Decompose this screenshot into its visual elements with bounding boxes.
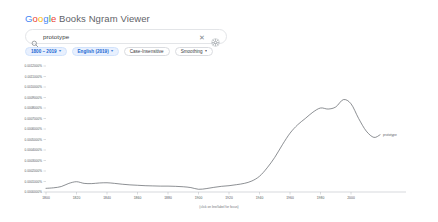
y-axis-ticks: 0.0000000%0.0001000%0.0002000%0.0003000%… [25,64,46,194]
y-axis-tick-label: 0.0011000% [25,75,42,79]
y-axis-tick-label: 0.0000000% [25,190,43,194]
y-axis-tick-label: 0.0005000% [25,138,43,142]
chip-case-insensitive[interactable]: Case-Insensitive [124,47,170,56]
x-axis-tick-label: 1800 [42,196,50,200]
page-title: Google Books Ngram Viewer [25,13,150,24]
chart-svg[interactable]: 0.0000000%0.0001000%0.0002000%0.0003000%… [0,60,438,222]
x-axis-tick-label: 1900 [195,196,203,200]
chip-case-insensitive-label: Case-Insensitive [130,47,164,56]
x-axis-tick-label: 1960 [286,196,294,200]
chip-year-range[interactable]: 1800 – 2019 ▾ [25,47,67,56]
chip-year-range-label: 1800 – 2019 [31,47,57,56]
y-axis-tick-label: 0.0004000% [25,148,43,152]
search-bar[interactable]: prototype ✕ [25,29,227,44]
x-axis-tick-label: 1940 [256,196,264,200]
x-axis-tick-label: 1920 [225,196,233,200]
gear-icon[interactable] [211,33,220,42]
x-axis-tick-label: 2000 [347,196,355,200]
chart-caption: (click on line/label for focus) [199,205,238,209]
x-axis-tick-label: 1880 [164,196,172,200]
ngram-chart[interactable]: 0.0000000%0.0001000%0.0002000%0.0003000%… [0,60,438,222]
y-axis-tick-label: 0.0001000% [25,180,43,184]
x-axis-tick-label: 1980 [317,196,325,200]
y-axis-tick-label: 0.0010000% [25,85,43,89]
y-axis-tick-label: 0.0006000% [25,127,43,131]
chip-corpus[interactable]: English (2019) ▾ [72,47,119,56]
chevron-down-icon: ▾ [59,50,61,54]
search-input[interactable]: prototype [43,33,69,40]
y-axis-tick-label: 0.0003000% [25,159,43,163]
brand-letter-g: G [25,13,33,24]
chip-corpus-label: English (2019) [78,47,109,56]
chip-smoothing[interactable]: Smoothing ▾ [175,47,213,56]
y-axis-tick-label: 0.0008000% [25,106,43,110]
y-axis-tick-label: 0.0009000% [25,96,43,100]
x-axis-ticks: 1800182018401860188019001920194019601980… [42,192,406,200]
x-axis-tick-label: 1840 [103,196,111,200]
series-labels: prototype [383,133,397,137]
y-axis-tick-label: 0.0007000% [25,117,43,121]
x-axis-tick-label: 1820 [73,196,81,200]
chevron-down-icon: ▾ [205,50,207,54]
search-icon [31,34,39,42]
brand-suffix: Books Ngram Viewer [56,13,150,24]
series-label-prototype[interactable]: prototype [383,133,397,137]
x-axis-tick-label: 1860 [134,196,142,200]
close-icon[interactable]: ✕ [198,34,205,41]
series-line-prototype[interactable] [46,99,380,189]
ngram-viewer-app: Google Books Ngram Viewer prototype ✕ [0,0,438,222]
y-axis-tick-label: 0.0002000% [25,169,43,173]
filter-chips: 1800 – 2019 ▾ English (2019) ▾ Case-Inse… [25,47,213,56]
chevron-down-icon: ▾ [111,50,113,54]
y-axis-tick-label: 0.0012000% [25,64,43,68]
plot-lines [46,99,380,189]
chip-smoothing-label: Smoothing [181,47,203,56]
